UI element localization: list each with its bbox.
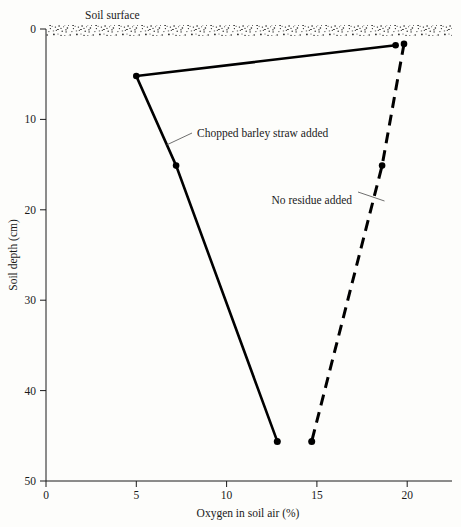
x-tick-label-0: 0 <box>43 489 49 501</box>
series-chopped-barley-straw-added <box>133 42 399 445</box>
figure-canvas: 0 10 20 30 40 50 0 5 10 15 20 Oxygen in … <box>0 0 461 527</box>
x-tick-label-20: 20 <box>401 489 413 501</box>
x-axis-tick-labels: 0 5 10 15 20 <box>43 489 413 501</box>
series-no-residue-added <box>308 41 407 445</box>
leader-line-chopped-barley <box>167 133 193 145</box>
x-tick-label-10: 10 <box>221 489 233 501</box>
y-axis-title: Soil depth (cm) <box>7 219 20 291</box>
y-tick-label-30: 30 <box>25 294 37 306</box>
annotation-no-residue-added: No residue added <box>272 194 353 206</box>
x-tick-label-15: 15 <box>311 489 323 501</box>
data-point <box>401 41 408 48</box>
x-tick-label-5: 5 <box>133 489 139 501</box>
y-tick-label-10: 10 <box>25 113 37 125</box>
data-point <box>392 42 399 49</box>
y-tick-label-0: 0 <box>30 23 36 35</box>
leader-line-no-residue <box>358 192 385 201</box>
oxygen-soil-depth-chart: 0 10 20 30 40 50 0 5 10 15 20 Oxygen in … <box>0 0 461 527</box>
data-point <box>133 73 140 80</box>
y-axis-tick-labels: 0 10 20 30 40 50 <box>25 23 37 487</box>
data-point <box>308 438 315 445</box>
y-axis-ticks <box>40 29 46 481</box>
y-tick-label-50: 50 <box>25 475 37 487</box>
y-tick-label-20: 20 <box>25 204 37 216</box>
data-point <box>274 438 281 445</box>
x-axis-title: Oxygen in soil air (%) <box>197 507 300 520</box>
x-axis-ticks <box>46 481 407 487</box>
data-point <box>173 162 180 169</box>
y-tick-label-40: 40 <box>25 385 37 397</box>
axes <box>46 29 452 481</box>
data-point <box>379 162 386 169</box>
soil-surface-band <box>46 25 452 36</box>
annotation-chopped-barley-straw-added: Chopped barley straw added <box>197 127 329 140</box>
soil-surface-label: Soil surface <box>85 9 140 21</box>
